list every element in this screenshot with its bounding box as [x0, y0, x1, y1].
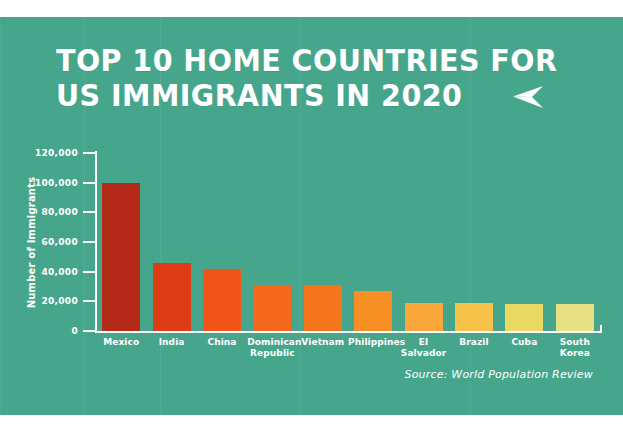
bar	[153, 263, 191, 331]
bar	[455, 303, 493, 331]
bar	[203, 269, 241, 331]
x-axis-end-cap	[600, 325, 602, 333]
x-axis-category-label: Brazil	[449, 337, 499, 348]
bar	[505, 304, 543, 331]
plot-area: 020,00040,00060,00080,000100,000120,000M…	[96, 153, 600, 331]
y-axis-tick-label: 80,000	[41, 207, 78, 217]
x-axis-category-label: China	[197, 337, 247, 348]
y-axis-tick-label: 120,000	[35, 148, 78, 158]
y-axis-tick	[83, 271, 96, 273]
y-axis-tick-label: 20,000	[41, 296, 78, 306]
bar	[304, 285, 342, 331]
y-axis-tick	[83, 241, 96, 243]
y-axis-tick	[83, 300, 96, 302]
infographic-poster: TOP 10 HOME COUNTRIES FOR US IMMIGRANTS …	[0, 0, 623, 429]
x-axis-category-label: Mexico	[96, 337, 146, 348]
x-axis-category-label: South Korea	[550, 337, 600, 359]
y-axis-tick	[83, 152, 96, 154]
bar	[354, 291, 392, 331]
bar	[102, 183, 140, 331]
poster-panel: TOP 10 HOME COUNTRIES FOR US IMMIGRANTS …	[0, 17, 623, 415]
y-axis-tick	[83, 182, 96, 184]
x-axis-category-label: Vietnam	[298, 337, 348, 348]
x-axis-line	[95, 331, 602, 333]
bar	[253, 285, 291, 331]
y-axis-tick	[83, 211, 96, 213]
bar	[556, 304, 594, 331]
x-axis-category-label: India	[146, 337, 196, 348]
source-note: Source: World Population Review	[404, 368, 593, 381]
y-axis-tick-label: 0	[71, 326, 78, 336]
y-axis-tick-label: 40,000	[41, 267, 78, 277]
y-axis-tick	[83, 330, 96, 332]
y-axis-title-text: Number of Immigrants	[27, 176, 38, 308]
x-axis-category-label: El Salvador	[398, 337, 448, 359]
x-axis-category-label: Dominican Republic	[247, 337, 297, 359]
bar-chart: Number of Immigrants 020,00040,00060,000…	[0, 17, 623, 415]
x-axis-category-label: Philippines	[348, 337, 398, 348]
y-axis-tick-label: 60,000	[41, 237, 78, 247]
y-axis-tick-label: 100,000	[35, 178, 78, 188]
x-axis-category-label: Cuba	[499, 337, 549, 348]
bar	[405, 303, 443, 331]
